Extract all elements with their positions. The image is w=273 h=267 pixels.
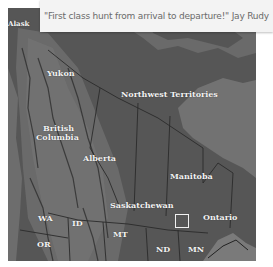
hunting-area-marker: [175, 214, 189, 228]
label-northwest-territories: Northwest Territories: [121, 89, 218, 99]
label-alberta: Alberta: [83, 153, 116, 163]
label-alaska: Alask: [8, 19, 29, 28]
label-manitoba: Manitoba: [170, 171, 213, 181]
label-yukon: Yukon: [47, 68, 75, 78]
label-id: ID: [72, 218, 83, 228]
label-nd: ND: [156, 244, 170, 254]
label-wa: WA: [38, 213, 53, 223]
testimonial-quote: "First class hunt from arrival to depart…: [44, 11, 269, 21]
label-mt: MT: [113, 229, 128, 239]
relief-map: Alask Yukon Northwest Territories Britis…: [8, 8, 256, 261]
label-british-columbia-line2: Columbia: [36, 132, 79, 142]
label-mn: MN: [188, 244, 204, 254]
label-or: OR: [37, 239, 51, 249]
testimonial-banner: "First class hunt from arrival to depart…: [40, 0, 273, 32]
label-saskatchewan: Saskatchewan: [110, 200, 174, 210]
label-ontario: Ontario: [203, 212, 237, 222]
